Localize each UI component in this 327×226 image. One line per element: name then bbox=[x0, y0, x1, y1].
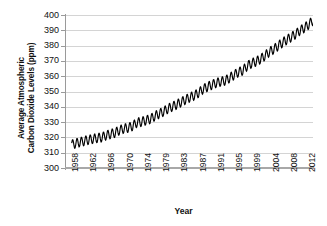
y-axis-tick bbox=[61, 76, 65, 77]
x-axis-tick-label: 1991 bbox=[217, 132, 226, 172]
y-axis-tick bbox=[61, 30, 65, 31]
x-axis-tick-label: 1974 bbox=[144, 132, 153, 172]
x-axis-tick-label: 1966 bbox=[107, 132, 116, 172]
x-axis-tick-label: 1958 bbox=[71, 132, 80, 172]
x-axis-tick-label: 2004 bbox=[272, 132, 281, 172]
x-axis-tick-label: 2012 bbox=[308, 132, 317, 172]
y-axis-tick bbox=[61, 137, 65, 138]
y-axis-tick bbox=[61, 92, 65, 93]
x-axis-tick-label: 1970 bbox=[126, 132, 135, 172]
co2-line-chart: Average Atmospheric Carbon Dioxide Level… bbox=[0, 0, 327, 226]
y-axis-tick bbox=[61, 153, 65, 154]
y-axis-tick bbox=[61, 168, 65, 169]
x-axis-tick-label: 1962 bbox=[89, 132, 98, 172]
x-axis-tick-labels: 1958196219661970197419791983198719911995… bbox=[0, 0, 327, 226]
y-axis-tick bbox=[61, 61, 65, 62]
y-axis-tick bbox=[61, 15, 65, 16]
x-axis-tick-label: 1995 bbox=[235, 132, 244, 172]
x-axis-tick-label: 2008 bbox=[290, 132, 299, 172]
y-axis-tick bbox=[61, 46, 65, 47]
x-axis-tick-label: 1979 bbox=[162, 132, 171, 172]
y-axis-tick bbox=[61, 107, 65, 108]
x-axis-tick-label: 1999 bbox=[253, 132, 262, 172]
x-axis-tick-label: 1987 bbox=[199, 132, 208, 172]
y-axis-tick bbox=[61, 122, 65, 123]
x-axis-title: Year bbox=[0, 206, 327, 216]
x-axis-tick-label: 1983 bbox=[180, 132, 189, 172]
